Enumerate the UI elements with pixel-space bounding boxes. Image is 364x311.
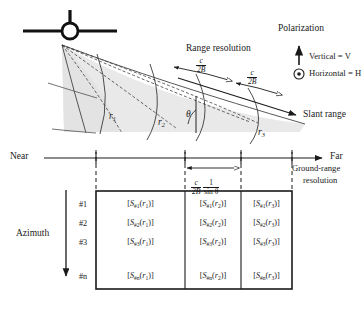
matrix-cell-r4-c1: [S#n(r1)] — [127, 271, 154, 280]
polarization-horizontal-label: Horizontal = H — [309, 69, 361, 78]
matrix-cell-r1-c3: [S#1(r3)] — [253, 199, 280, 208]
matrix-cell-r2-c3: [S#2(r3)] — [253, 218, 280, 227]
table-row-label-2: #2 — [79, 219, 87, 228]
matrix-cell-r1-c1: [S#1(r1)] — [127, 199, 154, 208]
sin-theta-denominator: sin θ — [203, 187, 219, 196]
one-numerator: 1 — [203, 179, 219, 187]
matrix-cell-r4-c2: [S#n(r2)] — [200, 271, 227, 280]
polarization-legend-graphics — [294, 46, 304, 79]
range-resolution-label: Range resolution — [186, 44, 251, 54]
range-resolution-formula-1: c 2B — [196, 56, 206, 74]
range-arc-label-r1: r1 — [109, 112, 116, 122]
table-row-label-3: #3 — [79, 238, 87, 247]
matrix-cell-r3-c1: [S#3(r1)] — [127, 237, 154, 246]
matrix-cell-r4-c3: [S#n(r3)] — [253, 271, 280, 280]
2b-denominator-ground: 2B — [191, 187, 201, 196]
slant-range-label: Slant range — [303, 110, 346, 120]
range-resolution-formula-2: c 2B — [247, 68, 257, 86]
azimuth-label: Azimuth — [16, 229, 49, 239]
ground-resolution-formula: c 2B 1 sin θ — [191, 172, 219, 196]
polarization-vertical-label: Vertical = V — [309, 52, 351, 61]
matrix-cell-r1-c2: [S#1(r2)] — [200, 199, 227, 208]
near-label: Near — [10, 152, 28, 162]
table-row-label-4: #n — [79, 272, 87, 281]
table-row-label-1: #1 — [79, 200, 87, 209]
c-numerator-1: c — [196, 57, 206, 65]
2b-denominator-1: 2B — [196, 65, 206, 74]
figure-canvas — [0, 0, 364, 311]
aircraft-icon — [23, 10, 117, 39]
range-resolution-arrows — [174, 67, 282, 95]
matrix-cell-r2-c2: [S#2(r2)] — [200, 218, 227, 227]
far-label: Far — [330, 152, 343, 162]
range-arc-label-r3: r3 — [258, 128, 265, 138]
sar-geometry-figure: Polarization Vertical = V Horizontal = H… — [0, 0, 364, 311]
polarization-title: Polarization — [278, 24, 324, 34]
range-arc-label-r2: r2 — [158, 118, 165, 128]
c-numerator-ground: c — [191, 179, 201, 187]
matrix-cell-r2-c1: [S#2(r1)] — [127, 218, 154, 227]
ground-range-axis — [44, 152, 322, 164]
c-numerator-2: c — [247, 69, 257, 77]
ground-range-resolution-line2: resolution — [303, 176, 337, 185]
ground-range-resolution-line1: Ground-range — [292, 164, 340, 173]
2b-denominator-2: 2B — [247, 77, 257, 86]
theta-label: θ — [186, 110, 191, 120]
matrix-cell-r3-c2: [S#3(r2)] — [200, 237, 227, 246]
matrix-cell-r3-c3: [S#3(r3)] — [253, 237, 280, 246]
